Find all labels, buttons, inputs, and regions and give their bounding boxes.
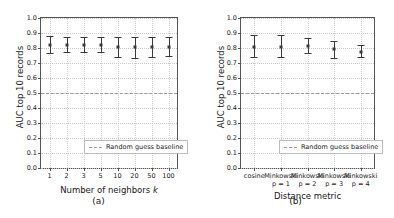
x-axis-tick (84, 168, 85, 171)
error-bar-cap-upper (304, 38, 311, 39)
y-gridline (41, 168, 177, 169)
y-gridline (41, 63, 177, 64)
baseline-line-icon (89, 147, 102, 148)
error-bar-cap-lower (46, 53, 53, 54)
y-axis-tick (38, 63, 41, 64)
data-point-marker (133, 46, 136, 49)
x-axis-tick (254, 168, 255, 171)
error-bar-cap-lower (148, 57, 155, 58)
x-axis-tick-label: 3 (81, 172, 85, 180)
baseline-line-icon (284, 147, 297, 148)
error-bar-cap-upper (331, 41, 338, 42)
y-axis-label-a: AUC top 10 records (15, 19, 25, 155)
y-axis-tick (38, 168, 41, 169)
error-bar-cap-lower (304, 53, 311, 54)
data-point-marker (279, 45, 282, 48)
error-bar-cap-lower (331, 58, 338, 59)
y-axis-tick (238, 123, 241, 124)
x-axis-tick-label: 5 (98, 172, 102, 180)
y-axis-tick-label: 0.3 (227, 119, 237, 127)
y-axis-tick-label: 0.0 (27, 164, 37, 172)
y-axis-tick (238, 138, 241, 139)
x-axis-tick (281, 168, 282, 171)
error-bar-cap-lower (131, 58, 138, 59)
panel-b: AUC top 10 records 0.00.10.20.30.40.50.6… (197, 0, 394, 218)
error-bar-cap-upper (277, 35, 284, 36)
error-bar-cap-lower (277, 57, 284, 58)
y-gridline (41, 33, 177, 34)
y-axis-tick-label: 0.1 (227, 149, 237, 157)
error-bar-cap-upper (165, 37, 172, 38)
error-bar-cap-upper (148, 37, 155, 38)
y-axis-tick-label: 0.5 (227, 89, 237, 97)
panel-a: AUC top 10 records 0.00.10.20.30.40.50.6… (0, 0, 197, 218)
random-guess-baseline (241, 93, 374, 94)
y-axis-tick (38, 18, 41, 19)
y-axis-tick-label: 0.2 (27, 134, 37, 142)
x-axis-tick-label: 10 (113, 172, 121, 180)
caption-b: (b) (197, 196, 394, 206)
random-guess-baseline (41, 93, 177, 94)
y-axis-tick-label: 1.0 (27, 14, 37, 22)
data-point-marker (65, 44, 68, 47)
y-axis-tick (38, 153, 41, 154)
x-axis-tick (152, 168, 153, 171)
y-axis-tick (238, 18, 241, 19)
x-axis-tick (169, 168, 170, 171)
y-axis-tick-label: 0.8 (227, 44, 237, 52)
legend-a: Random guess baseline (84, 140, 188, 154)
x-axis-tick-label: 50 (147, 172, 155, 180)
x-axis-tick (334, 168, 335, 171)
error-bar-cap-upper (63, 37, 70, 38)
y-gridline (41, 123, 177, 124)
error-bar-cap-upper (46, 36, 53, 37)
data-point-marker (99, 44, 102, 47)
y-gridline (41, 18, 177, 19)
x-axis-label-a-symbol: k (153, 185, 158, 195)
x-axis-tick-label-line1: Minkowski (344, 172, 377, 180)
data-point-marker (333, 48, 336, 51)
y-axis-tick (238, 33, 241, 34)
y-axis-tick-label: 0.4 (27, 104, 37, 112)
y-axis-tick (238, 48, 241, 49)
caption-a: (a) (0, 196, 197, 206)
y-axis-tick (238, 153, 241, 154)
error-bar-cap-lower (80, 52, 87, 53)
x-axis-label-a: Number of neighbors k (40, 185, 178, 195)
y-axis-tick-label: 0.1 (27, 149, 37, 157)
data-point-marker (253, 46, 256, 49)
error-bar-cap-lower (97, 52, 104, 53)
y-gridline (41, 108, 177, 109)
y-axis-tick-label: 0.0 (227, 164, 237, 172)
data-point-marker (116, 46, 119, 49)
legend-label-a: Random guess baseline (106, 143, 183, 151)
x-axis-tick (50, 168, 51, 171)
error-bar-cap-lower (251, 57, 258, 58)
y-axis-tick-label: 0.7 (227, 59, 237, 67)
error-bar-cap-upper (131, 37, 138, 38)
y-axis-tick (238, 78, 241, 79)
data-point-marker (48, 44, 51, 47)
x-axis-tick-label: 100 (162, 172, 174, 180)
y-gridline (41, 138, 177, 139)
y-axis-tick (38, 123, 41, 124)
x-axis-tick (135, 168, 136, 171)
error-bar-cap-lower (63, 52, 70, 53)
x-axis-tick (118, 168, 119, 171)
y-axis-tick (238, 168, 241, 169)
error-bar-cap-upper (114, 37, 121, 38)
y-gridline (41, 48, 177, 49)
y-axis-tick (238, 108, 241, 109)
y-axis-tick (38, 33, 41, 34)
data-point-marker (359, 50, 362, 53)
y-axis-tick (38, 138, 41, 139)
error-bar-cap-upper (80, 37, 87, 38)
x-axis-tick-label: 1 (47, 172, 51, 180)
y-axis-tick-label: 0.4 (227, 104, 237, 112)
x-axis-tick-label: 20 (130, 172, 138, 180)
error-bar-cap-upper (97, 37, 104, 38)
x-axis-tick-label-line2: p = 4 (338, 180, 384, 188)
data-point-marker (150, 45, 153, 48)
legend-b: Random guess baseline (279, 140, 383, 154)
x-axis-tick-label: 2 (64, 172, 68, 180)
